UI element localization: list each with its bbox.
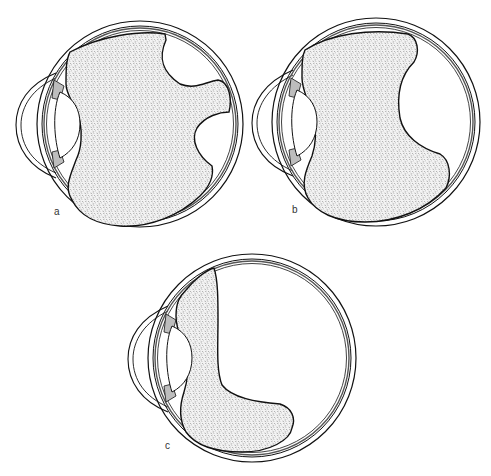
eye-panel-a [16,21,243,227]
panel-label-c: c [165,440,170,451]
eye-panel-b [252,18,480,226]
eye-panel-c [128,254,356,462]
eye-diagram-figure [0,0,491,476]
panel-label-a: a [54,206,60,217]
panel-label-b: b [292,204,298,215]
